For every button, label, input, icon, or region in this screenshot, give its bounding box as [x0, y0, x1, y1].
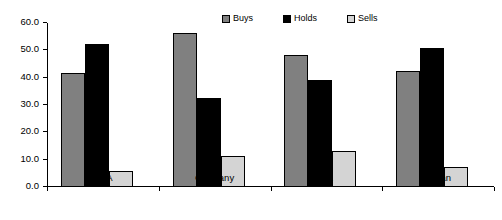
bar-japan-buys: [396, 71, 420, 187]
bar-japan-holds: [420, 48, 444, 187]
y-tick-label: 10.0: [21, 153, 40, 164]
legend-label-holds: Holds: [294, 14, 317, 23]
y-tick-label: 40.0: [21, 71, 40, 82]
bar-germany-buys: [173, 33, 197, 187]
y-tick-label: 0.0: [26, 180, 39, 191]
bar-chart: Buys Holds Sells 0.010.020.030.040.050.0…: [0, 0, 502, 220]
y-tick-label: 30.0: [21, 98, 40, 109]
legend-entry-buys: Buys: [222, 14, 253, 23]
bar-group: [61, 23, 133, 187]
x-category-label: Germany: [159, 172, 271, 183]
x-category-label: USA: [47, 172, 159, 183]
x-category-label: Japan: [382, 172, 494, 183]
bar-group: [173, 23, 245, 187]
x-tick: [494, 187, 495, 191]
x-tick: [47, 187, 48, 191]
legend-entry-holds: Holds: [283, 14, 317, 23]
x-tick: [382, 187, 383, 191]
bar-usa-buys: [61, 73, 85, 187]
bar-group: [396, 23, 468, 187]
bar-usa-holds: [85, 44, 109, 188]
x-tick: [271, 187, 272, 191]
bar-uk-holds: [308, 80, 332, 187]
legend-entry-sells: Sells: [347, 14, 378, 23]
y-axis-line: [47, 23, 48, 187]
bar-group: [284, 23, 356, 187]
legend-swatch-sells: [347, 15, 355, 23]
plot-area: 0.010.020.030.040.050.060.0: [47, 23, 494, 187]
legend-swatch-holds: [283, 15, 291, 23]
y-tick-label: 60.0: [21, 16, 40, 27]
x-category-label: UK: [271, 172, 383, 183]
y-tick-label: 20.0: [21, 125, 40, 136]
y-tick: 50.0: [43, 49, 47, 50]
y-tick: 10.0: [43, 159, 47, 160]
bar-uk-buys: [284, 55, 308, 187]
y-tick-label: 50.0: [21, 43, 40, 54]
y-tick: 40.0: [43, 77, 47, 78]
y-tick: 20.0: [43, 131, 47, 132]
x-tick: [159, 187, 160, 191]
legend-label-buys: Buys: [233, 14, 253, 23]
legend-label-sells: Sells: [358, 14, 378, 23]
y-tick: 60.0: [43, 22, 47, 23]
legend-swatch-buys: [222, 15, 230, 23]
y-tick: 30.0: [43, 104, 47, 105]
chart-legend: Buys Holds Sells: [222, 14, 378, 23]
